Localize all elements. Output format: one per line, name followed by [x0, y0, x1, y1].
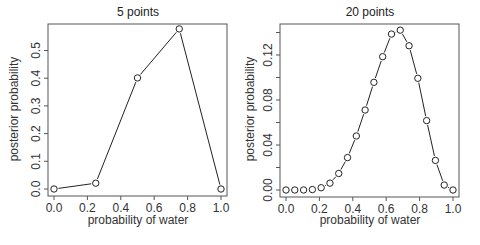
- y-tick-label: 0.00: [261, 178, 275, 202]
- data-point: [415, 75, 421, 81]
- x-axis-label: probability of water: [48, 213, 228, 227]
- data-point: [353, 133, 359, 139]
- data-point: [318, 185, 324, 191]
- data-point: [283, 187, 289, 193]
- y-tick-label: 0.5: [29, 42, 43, 59]
- chart-20-points: 0.00.20.40.60.81.00.000.040.080.12 20 po…: [240, 0, 480, 245]
- plot-5-points: 0.00.20.40.60.81.00.00.10.20.30.40.5: [0, 0, 240, 245]
- data-point: [176, 26, 182, 32]
- data-point: [93, 180, 99, 186]
- y-axis-label: posterior probability: [7, 29, 21, 189]
- y-tick-label: 0.1: [29, 153, 43, 170]
- data-point: [441, 182, 447, 188]
- data-point: [344, 154, 350, 160]
- data-point: [292, 187, 298, 193]
- x-axis-label: probability of water: [280, 213, 460, 227]
- data-point: [423, 117, 429, 123]
- chart-5-points: 0.00.20.40.60.81.00.00.10.20.30.40.5 5 p…: [0, 0, 240, 245]
- data-point: [218, 186, 224, 192]
- data-point: [336, 170, 342, 176]
- data-point: [371, 79, 377, 85]
- y-tick-label: 0.12: [261, 43, 275, 67]
- data-point: [379, 53, 385, 59]
- y-tick-label: 0.04: [261, 133, 275, 157]
- y-axis-label: posterior probability: [243, 29, 257, 189]
- data-point: [327, 180, 333, 186]
- y-tick-label: 0.3: [29, 97, 43, 114]
- plot-20-points: 0.00.20.40.60.81.00.000.040.080.12: [240, 0, 480, 245]
- data-point: [406, 43, 412, 49]
- y-tick-label: 0.08: [261, 88, 275, 112]
- data-point: [362, 107, 368, 113]
- chart-title: 5 points: [48, 5, 228, 19]
- y-tick-label: 0.2: [29, 125, 43, 142]
- data-point: [134, 75, 140, 81]
- y-tick-label: 0.4: [29, 70, 43, 87]
- data-point: [450, 187, 456, 193]
- data-point: [309, 186, 315, 192]
- plot-frame: [280, 24, 459, 197]
- chart-title: 20 points: [280, 5, 460, 19]
- y-tick-label: 0.0: [29, 180, 43, 197]
- data-point: [397, 27, 403, 33]
- data-point: [51, 186, 57, 192]
- data-point: [432, 157, 438, 163]
- data-point: [300, 187, 306, 193]
- data-point: [388, 31, 394, 37]
